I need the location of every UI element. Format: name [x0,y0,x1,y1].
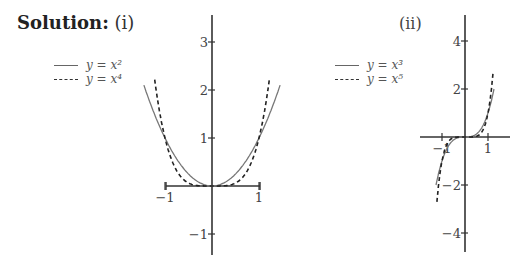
y-tick-label: −4 [442,226,461,241]
y-tick-label: 2 [453,82,461,97]
plots: −11−1123 −11−4−224 [0,0,528,266]
y-tick-label: 3 [200,35,208,50]
x-tick-label: 1 [484,141,492,156]
y-tick-label: 4 [453,34,461,49]
y-tick-label: 1 [200,131,208,146]
plot-i: −11−1123 [144,15,280,255]
plot-ii: −11−4−224 [420,15,510,252]
x-tick-label: 1 [255,190,263,205]
y-tick-label: −2 [442,178,461,193]
y-tick-label: −1 [189,227,208,242]
x-tick-label: −1 [155,190,174,205]
x-tick-label: −1 [432,141,451,156]
y-tick-label: 2 [200,83,208,98]
